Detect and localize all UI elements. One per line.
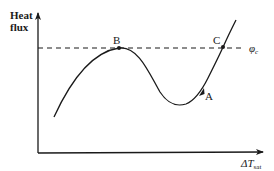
point-b-label: B	[113, 34, 120, 46]
y-axis-label-line1: Heat	[10, 9, 33, 21]
critical-flux-subscript: c	[255, 48, 259, 56]
critical-flux-label: φc	[249, 42, 259, 56]
boiling-curve	[54, 20, 236, 117]
point-a-label: A	[205, 90, 213, 102]
x-axis-label-subscript: sat	[254, 163, 262, 171]
point-b-marker	[117, 46, 121, 50]
y-axis-label-line2: flux	[10, 21, 29, 33]
point-c-marker	[221, 45, 225, 49]
x-axis	[38, 152, 263, 153]
boiling-curve-diagram: B C A φc Heat flux ΔTsat	[0, 0, 274, 171]
x-axis-label-main: ΔT	[240, 157, 254, 169]
x-axis-label: ΔTsat	[240, 157, 261, 171]
point-c-label: C	[213, 34, 220, 46]
